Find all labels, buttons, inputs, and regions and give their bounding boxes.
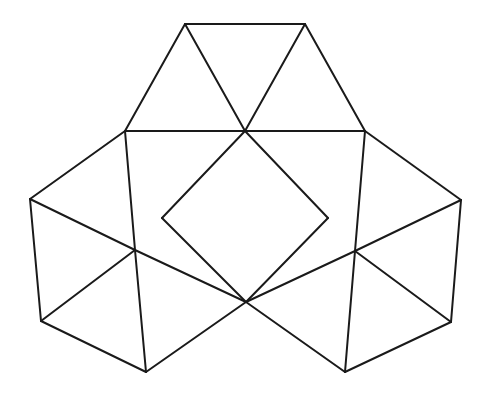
edge-P-L [246, 302, 345, 372]
edge-C-F [30, 131, 125, 199]
edge-C-H [125, 131, 135, 250]
edge-H-O [135, 250, 146, 372]
edge-F-M [30, 199, 41, 321]
edge-H-M [41, 250, 135, 321]
edge-I-L [246, 251, 355, 302]
edge-A-D [185, 24, 245, 131]
edge-L-K [246, 218, 328, 302]
edge-E-G [365, 131, 461, 200]
edge-G-N [451, 200, 461, 322]
edge-F-H [30, 199, 135, 250]
edge-G-I [355, 200, 461, 251]
edge-H-L [135, 250, 246, 302]
edge-A-C [125, 24, 185, 131]
edge-M-O [41, 321, 146, 372]
geometric-figure [0, 0, 481, 393]
edge-I-P [345, 251, 355, 372]
edge-B-D [245, 24, 305, 131]
edge-K-D [245, 131, 328, 218]
edge-O-L [146, 302, 246, 372]
edge-E-I [355, 131, 365, 251]
edge-D-J [162, 131, 245, 218]
figure-svg [0, 0, 481, 393]
edge-N-P [345, 322, 451, 372]
edge-I-N [355, 251, 451, 322]
edge-J-L [162, 218, 246, 302]
edge-B-E [305, 24, 365, 131]
